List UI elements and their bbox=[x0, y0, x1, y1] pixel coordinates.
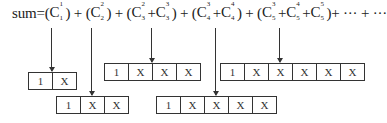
formula-prefix: sum= bbox=[12, 5, 45, 21]
cell: X bbox=[153, 64, 177, 80]
cell: X bbox=[177, 64, 200, 80]
cell: X bbox=[293, 64, 317, 80]
cell: X bbox=[53, 73, 76, 89]
cell: X bbox=[205, 97, 229, 113]
cell: 1 bbox=[29, 73, 53, 89]
cell: X bbox=[317, 64, 341, 80]
subscript: 3 bbox=[166, 14, 169, 22]
cell: X bbox=[229, 97, 253, 113]
combination-term: C45 bbox=[286, 2, 302, 18]
c-symbol: C bbox=[310, 4, 320, 21]
arrow-to-box-4 bbox=[215, 28, 216, 95]
arrow-to-box-3 bbox=[151, 28, 152, 62]
cell: 1 bbox=[105, 64, 129, 80]
plus-separator: + bbox=[176, 5, 191, 21]
subscript: 1 bbox=[59, 14, 62, 22]
superscript: 1 bbox=[59, 0, 62, 8]
subscript: 4 bbox=[207, 14, 210, 22]
cell: 1 bbox=[221, 64, 245, 80]
cell-box-1: 1 X bbox=[28, 72, 77, 90]
c-symbol: C bbox=[221, 4, 231, 21]
combination-term: C35 bbox=[262, 2, 278, 18]
combination-term: C34 bbox=[197, 2, 213, 18]
cell: X bbox=[81, 97, 105, 113]
c-symbol: C bbox=[156, 4, 166, 21]
superscript: 4 bbox=[296, 0, 299, 8]
formula-group-1: (C11) + bbox=[45, 5, 86, 21]
c-symbol: C bbox=[90, 4, 100, 21]
cell: X bbox=[341, 64, 364, 80]
subscript: 5 bbox=[272, 14, 275, 22]
cell-box-4: 1 X X X X bbox=[156, 96, 277, 114]
c-symbol: C bbox=[286, 4, 296, 21]
c-symbol: C bbox=[262, 4, 272, 21]
cell: X bbox=[129, 64, 153, 80]
plus-separator: + bbox=[70, 5, 85, 21]
cell-box-2: 1 X X bbox=[56, 96, 129, 114]
subscript: 4 bbox=[231, 14, 234, 22]
combination-term: C11 bbox=[49, 2, 65, 18]
combination-term: C44 bbox=[221, 2, 237, 18]
plus-sign: + bbox=[147, 5, 155, 21]
combination-term: C23 bbox=[131, 2, 147, 18]
combination-term: C22 bbox=[90, 2, 106, 18]
formula-group-4: (C34+C44) + bbox=[192, 5, 257, 21]
subscript: 2 bbox=[100, 14, 103, 22]
subscript: 5 bbox=[320, 14, 323, 22]
ellipsis-tail: + ··· + ··· bbox=[331, 5, 387, 21]
arrow-to-box-5 bbox=[279, 28, 280, 62]
cell: X bbox=[105, 97, 128, 113]
c-symbol: C bbox=[49, 4, 59, 21]
sum-formula: sum=(C11) + (C22) + (C23+C33) + (C34+C44… bbox=[12, 2, 387, 22]
superscript: 3 bbox=[272, 0, 275, 8]
plus-sign: + bbox=[302, 5, 310, 21]
superscript: 5 bbox=[320, 0, 323, 8]
superscript: 2 bbox=[100, 0, 103, 8]
cell: 1 bbox=[157, 97, 181, 113]
cell: X bbox=[253, 97, 276, 113]
formula-group-3: (C23+C33) + bbox=[127, 5, 192, 21]
arrow-to-box-1 bbox=[51, 28, 52, 71]
plus-sign: + bbox=[213, 5, 221, 21]
formula-group-5: (C35+C45+C55)+ ··· + ··· bbox=[257, 5, 387, 21]
subscript: 3 bbox=[141, 14, 144, 22]
cell-box-5: 1 X X X X X bbox=[220, 63, 365, 81]
plus-separator: + bbox=[111, 5, 126, 21]
formula-group-2: (C22) + bbox=[86, 5, 127, 21]
superscript: 3 bbox=[207, 0, 210, 8]
superscript: 4 bbox=[231, 0, 234, 8]
combination-term: C33 bbox=[156, 2, 172, 18]
cell: X bbox=[181, 97, 205, 113]
c-symbol: C bbox=[197, 4, 207, 21]
c-symbol: C bbox=[131, 4, 141, 21]
cell: X bbox=[269, 64, 293, 80]
subscript: 5 bbox=[296, 14, 299, 22]
superscript: 3 bbox=[166, 0, 169, 8]
superscript: 2 bbox=[141, 0, 144, 8]
cell-box-3: 1 X X X bbox=[104, 63, 201, 81]
plus-separator: + bbox=[242, 5, 257, 21]
plus-sign: + bbox=[278, 5, 286, 21]
cell: X bbox=[245, 64, 269, 80]
combination-term: C55 bbox=[310, 2, 326, 18]
cell: 1 bbox=[57, 97, 81, 113]
arrow-to-box-2 bbox=[91, 28, 92, 95]
